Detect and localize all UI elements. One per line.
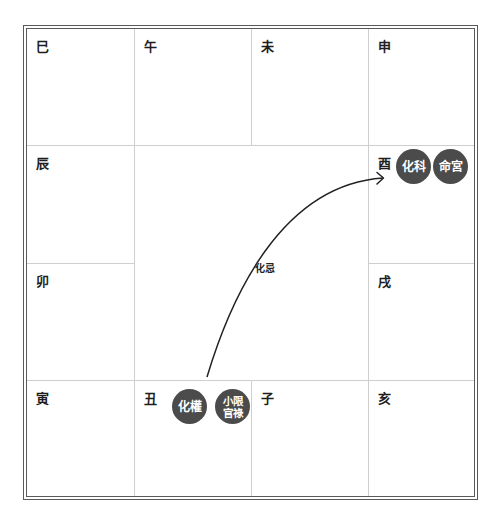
- badge-hua-ke[interactable]: 化科: [396, 149, 431, 184]
- chart-board: 巳 午 未 申 辰 酉 卯 戌 寅 丑 子 亥: [23, 25, 478, 500]
- palace-wu[interactable]: 午: [135, 29, 252, 146]
- branch-label: 丑: [144, 388, 157, 407]
- badge-xiao-xian-guan-lu[interactable]: 小限 官祿: [215, 389, 250, 424]
- palace-wei[interactable]: 未: [252, 29, 369, 146]
- branch-label: 午: [144, 36, 157, 55]
- palace-shen[interactable]: 申: [369, 29, 474, 146]
- branch-label: 卯: [36, 271, 49, 290]
- branch-label: 亥: [378, 388, 391, 407]
- branch-label: 辰: [36, 153, 49, 172]
- arrow-label: 化忌: [255, 260, 275, 275]
- branch-label: 酉: [378, 153, 391, 172]
- center-area: [135, 146, 369, 381]
- badge-ming-gong[interactable]: 命宮: [433, 149, 468, 184]
- badge-text-line2: 官祿: [223, 407, 243, 419]
- branch-label: 未: [261, 36, 274, 55]
- badge-text: 化科: [402, 161, 426, 173]
- palace-hai[interactable]: 亥: [369, 381, 474, 496]
- palace-mao[interactable]: 卯: [27, 264, 135, 381]
- badge-text-line1: 小限: [223, 395, 243, 407]
- palace-chen[interactable]: 辰: [27, 146, 135, 264]
- branch-label: 寅: [36, 388, 49, 407]
- branch-label: 申: [378, 36, 391, 55]
- badge-text: 化權: [178, 401, 202, 413]
- palace-zi[interactable]: 子: [252, 381, 369, 496]
- branch-label: 戌: [378, 271, 391, 290]
- branch-label: 子: [261, 388, 274, 407]
- badge-hua-quan[interactable]: 化權: [172, 389, 207, 424]
- palace-xu[interactable]: 戌: [369, 264, 474, 381]
- palace-si[interactable]: 巳: [27, 29, 135, 146]
- palace-yin[interactable]: 寅: [27, 381, 135, 496]
- branch-label: 巳: [36, 36, 49, 55]
- badge-text: 命宮: [439, 161, 463, 173]
